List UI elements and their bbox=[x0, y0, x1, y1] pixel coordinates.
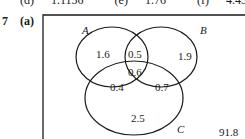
set-b-label: B bbox=[200, 24, 207, 36]
region-b-c: 0.7 bbox=[155, 81, 169, 93]
set-a-label: A bbox=[81, 24, 89, 36]
region-a-b-c: 0.6 bbox=[128, 66, 142, 78]
venn-diagram: A B C 1.6 1.9 0.5 0.6 0.4 0.7 2.5 91.8 bbox=[0, 0, 245, 139]
region-b-only: 1.9 bbox=[178, 50, 192, 62]
region-a-b: 0.5 bbox=[128, 48, 142, 60]
region-a-c: 0.4 bbox=[110, 81, 124, 93]
region-outside: 91.8 bbox=[219, 126, 239, 138]
region-c-only: 2.5 bbox=[131, 112, 145, 124]
set-c-label: C bbox=[177, 123, 185, 135]
region-a-only: 1.6 bbox=[96, 48, 110, 60]
